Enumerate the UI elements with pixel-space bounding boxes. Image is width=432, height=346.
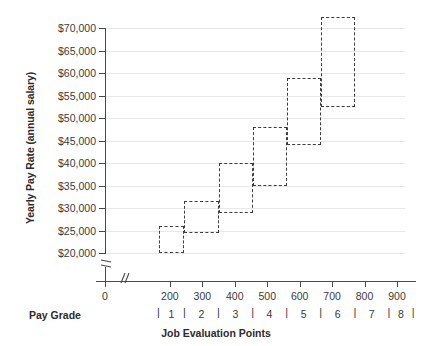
pay-grade-number: 3 xyxy=(225,308,245,320)
x-tick-mark xyxy=(397,282,398,287)
gridline xyxy=(105,51,405,52)
pay-grade-number: 7 xyxy=(362,308,382,320)
y-tick-label: $50,000 xyxy=(28,113,96,123)
pay-grade-number: 5 xyxy=(294,308,314,320)
gridline xyxy=(105,253,405,254)
pay-range-box xyxy=(321,17,355,107)
y-tick-label: $55,000 xyxy=(28,91,96,101)
y-tick-label: $25,000 xyxy=(28,226,96,236)
pay-grade-number: 6 xyxy=(328,308,348,320)
y-axis-line xyxy=(105,28,106,254)
gridline xyxy=(105,28,405,29)
y-tick-label: $45,000 xyxy=(28,136,96,146)
x-tick-label: 0 xyxy=(85,290,125,302)
gridline xyxy=(105,73,405,74)
pay-range-box xyxy=(219,163,253,213)
gridline xyxy=(105,118,405,119)
x-tick-mark xyxy=(365,282,366,287)
pay-range-box xyxy=(159,226,185,253)
pay-grade-separator: | xyxy=(282,306,292,318)
x-tick-label: 900 xyxy=(377,290,417,302)
y-tick-label: $40,000 xyxy=(28,158,96,168)
x-tick-mark xyxy=(202,282,203,287)
gridline xyxy=(105,208,405,209)
y-tick-label: $60,000 xyxy=(28,68,96,78)
gridline xyxy=(105,96,405,97)
x-axis-title: Job Evaluation Points xyxy=(0,327,432,339)
gridline xyxy=(105,186,405,187)
x-axis-line xyxy=(96,281,416,282)
pay-grade-number: 8 xyxy=(391,308,411,320)
x-tick-mark xyxy=(235,282,236,287)
pay-range-box xyxy=(184,201,218,233)
pay-range-box xyxy=(287,78,321,146)
y-tick-label: $20,000 xyxy=(28,248,96,258)
gridline xyxy=(105,231,405,232)
pay-range-box xyxy=(253,127,287,186)
x-tick-mark xyxy=(170,282,171,287)
x-tick-mark xyxy=(332,282,333,287)
y-tick-label: $35,000 xyxy=(28,181,96,191)
y-tick-label: $70,000 xyxy=(28,23,96,33)
x-tick-mark xyxy=(300,282,301,287)
pay-grade-separator: | xyxy=(316,306,326,318)
pay-grade-number: 1 xyxy=(162,308,182,320)
pay-grade-number: 2 xyxy=(191,308,211,320)
y-tick-label: $65,000 xyxy=(28,46,96,56)
pay-grade-separator: | xyxy=(214,306,224,318)
pay-grade-number: 4 xyxy=(259,308,279,320)
x-tick-mark xyxy=(267,282,268,287)
pay-grade-separator: | xyxy=(248,306,258,318)
y-tick-label: $30,000 xyxy=(28,203,96,213)
x-axis-break-icon xyxy=(117,272,131,284)
pay-grade-separator: | xyxy=(350,306,360,318)
x-tick-mark xyxy=(105,282,106,287)
pay-grade-axis-label: Pay Grade xyxy=(29,309,81,321)
pay-structure-chart: Yearly Pay Rate (annual salary) $20,000$… xyxy=(0,0,432,346)
